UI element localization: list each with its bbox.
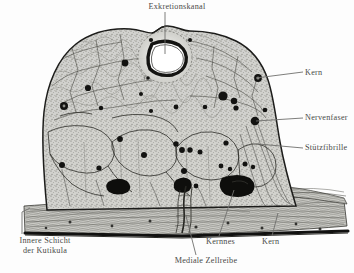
- label-exkretionskanal: Exkretionskanal: [0, 2, 354, 12]
- histology-drawing: [0, 0, 354, 273]
- kernnest-main: [220, 175, 255, 197]
- figure-plate: Exkretionskanal Kern Nervenfaser Stützfi…: [0, 0, 354, 273]
- label-stuetzfibrille: Stützfibrille: [305, 143, 347, 153]
- label-kernnes: Kernnes: [206, 237, 235, 247]
- label-innere-schicht-line2: der Kutikula: [23, 246, 67, 255]
- label-kern-bottom: Kern: [262, 237, 279, 247]
- label-nervenfaser: Nervenfaser: [305, 113, 348, 123]
- label-kern-right: Kern: [305, 68, 322, 78]
- label-innere-schicht-der-kutikula: Innere Schicht der Kutikula: [4, 236, 86, 255]
- label-innere-schicht-line1: Innere Schicht: [19, 236, 70, 245]
- label-mediale-zellreihe: Mediale Zellreibe: [148, 256, 264, 266]
